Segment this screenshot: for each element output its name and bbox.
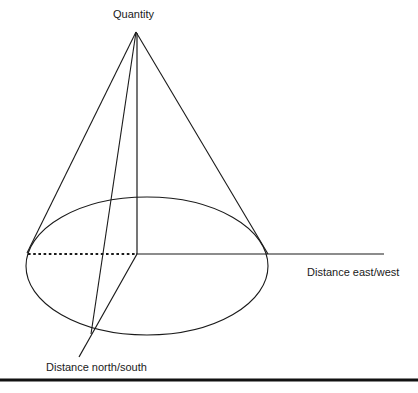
north-south-axis-label: Distance north/south bbox=[46, 361, 147, 374]
east-west-axis-label: Distance east/west bbox=[307, 266, 399, 279]
north-south-axis bbox=[79, 254, 137, 357]
cone-edge-right bbox=[136, 32, 268, 254]
base-ellipse bbox=[26, 197, 268, 335]
quantity-axis-label: Quantity bbox=[113, 8, 154, 21]
cone-diagram-graphic bbox=[0, 0, 418, 393]
figure-canvas: Quantity Distance east/west Distance nor… bbox=[0, 0, 418, 393]
